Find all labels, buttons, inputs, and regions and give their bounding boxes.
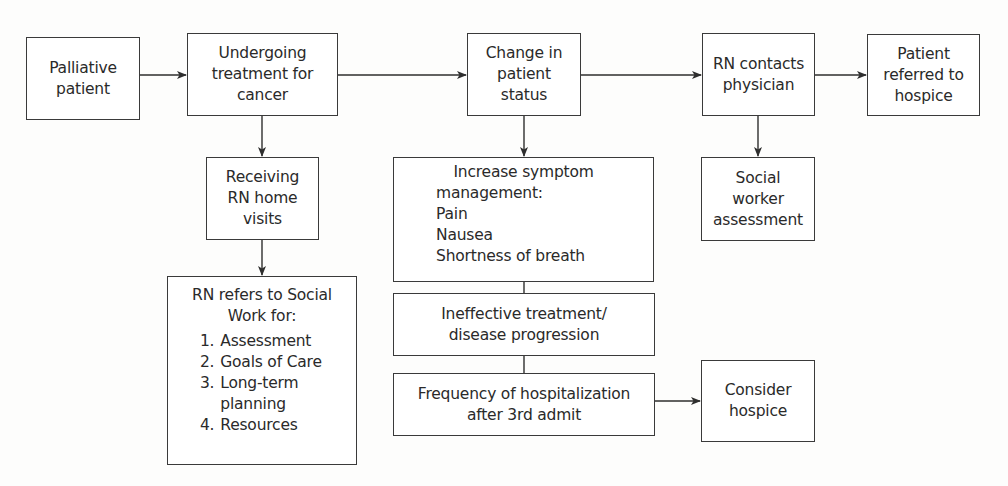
node-text: Social [736,168,781,189]
node-text: disease progression [449,325,600,346]
symptom-list: management: Pain Nausea Shortness of bre… [436,183,585,267]
node-text: Ineffective treatment/ [441,304,607,325]
list-item: 4. Resources [190,415,321,436]
node-text: Receiving [226,167,299,188]
list-item-text: Goals of Care [220,352,321,373]
node-rn-contacts-physician: RN contacts physician [702,33,815,116]
node-text: referred to [883,65,963,86]
social-work-reasons-list: 1. Assessment 2. Goals of Care 3. Long-t… [190,331,321,436]
list-item-number: 4. [190,415,220,436]
symptom-item: Shortness of breath [436,246,585,267]
node-header-text: Work for: [228,306,297,327]
node-text: RN home [228,188,298,209]
list-item-text: Resources [220,415,297,436]
node-header-text: management: [436,183,585,204]
node-text: RN contacts [713,54,804,75]
node-text: physician [723,75,795,96]
node-increase-symptom-management: Increase symptom management: Pain Nausea… [393,157,654,282]
flowchart-canvas: Palliative patient Undergoing treatment … [0,0,1008,486]
node-change-in-status: Change in patient status [467,33,581,116]
node-text: hospice [729,401,787,422]
node-undergoing-treatment: Undergoing treatment for cancer [187,33,338,116]
list-item: 1. Assessment [190,331,321,352]
node-palliative-patient: Palliative patient [26,37,140,120]
symptom-item: Pain [436,204,585,225]
node-header-text: RN refers to Social [192,285,332,306]
node-text: patient [56,79,110,100]
list-item: 3. Long-term [190,373,321,394]
node-frequency-of-hospitalization: Frequency of hospitalization after 3rd a… [393,373,655,436]
node-text: status [501,85,547,106]
node-text: hospice [894,86,952,107]
list-item-continuation: planning [190,394,321,415]
node-text: worker [732,189,784,210]
list-item-number: 2. [190,352,220,373]
list-item-text: Assessment [220,331,311,352]
node-social-worker-assessment: Social worker assessment [701,157,815,241]
node-text: Frequency of hospitalization [418,384,630,405]
list-item-text: Long-term [220,373,298,394]
node-text: Patient [897,44,950,65]
list-item-text: planning [220,394,286,415]
node-text: Consider [725,380,792,401]
node-text: treatment for [212,64,313,85]
node-text: Palliative [49,58,117,79]
node-text: after 3rd admit [467,405,581,426]
symptom-item: Nausea [436,225,585,246]
node-header-text: Increase symptom [453,162,593,183]
node-consider-hospice: Consider hospice [701,360,815,442]
node-text: Undergoing [219,43,307,64]
list-item: 2. Goals of Care [190,352,321,373]
node-text: cancer [237,85,288,106]
node-receiving-rn-home-visits: Receiving RN home visits [206,157,319,240]
node-rn-refers-to-social-work: RN refers to Social Work for: 1. Assessm… [167,276,357,465]
node-patient-referred-to-hospice: Patient referred to hospice [867,34,980,116]
node-text: Change in [486,43,563,64]
node-text: assessment [713,210,803,231]
node-text: patient [497,64,551,85]
node-text: visits [243,209,282,230]
list-item-number: 3. [190,373,220,394]
list-item-number: 1. [190,331,220,352]
node-ineffective-treatment: Ineffective treatment/ disease progressi… [393,293,655,356]
